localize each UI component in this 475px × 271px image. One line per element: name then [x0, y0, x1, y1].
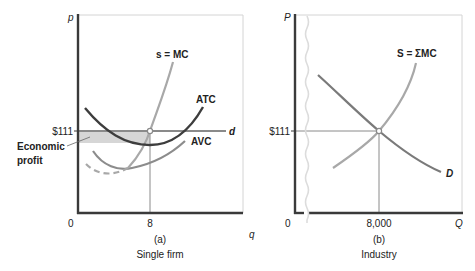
panel-a-price-label: $111 — [52, 126, 73, 137]
panel-b-caption-title: Industry — [361, 249, 397, 260]
industry-supply-curve — [333, 63, 416, 168]
panel-a-caption-letter: (a) — [154, 234, 166, 245]
avc-label: AVC — [191, 136, 211, 147]
panel-b-origin: 0 — [285, 218, 291, 229]
panel-a-y-label: p — [67, 12, 74, 23]
economic-profit-label-line2: profit — [17, 155, 43, 166]
panel-b-x-label: Q — [455, 218, 463, 229]
panel-a-caption-title: Single firm — [136, 249, 183, 260]
panel-b-quantity-label: 8,000 — [366, 218, 391, 229]
firm-demand-label: d — [229, 126, 236, 137]
panel-a-origin: 0 — [68, 218, 74, 229]
atc-label: ATC — [196, 94, 216, 105]
panel-b-y-label: P — [284, 12, 291, 23]
firm-equilibrium-point — [147, 128, 152, 133]
panel-b-caption-letter: (b) — [373, 234, 385, 245]
panel-a-single-firm: p q 0 $111 8 (a) Single firm s = MC ATC … — [17, 12, 255, 260]
axis-break-line — [306, 16, 309, 223]
economic-profit-label-line1: Economic — [17, 141, 65, 152]
diagram-canvas: p q 0 $111 8 (a) Single firm s = MC ATC … — [0, 0, 475, 271]
panel-b-industry: P Q 0 $111 8,000 (b) Industry S = ΣMC D — [269, 12, 463, 260]
panel-b-price-label: $111 — [269, 126, 290, 137]
industry-supply-label: S = ΣMC — [397, 48, 437, 59]
panel-a-x-label: q — [249, 229, 255, 240]
mc-label: s = MC — [156, 49, 189, 60]
panel-a-frame — [78, 15, 243, 213]
industry-demand-label: D — [446, 168, 453, 179]
industry-equilibrium-point — [376, 128, 381, 133]
panel-a-quantity-label: 8 — [147, 218, 153, 229]
